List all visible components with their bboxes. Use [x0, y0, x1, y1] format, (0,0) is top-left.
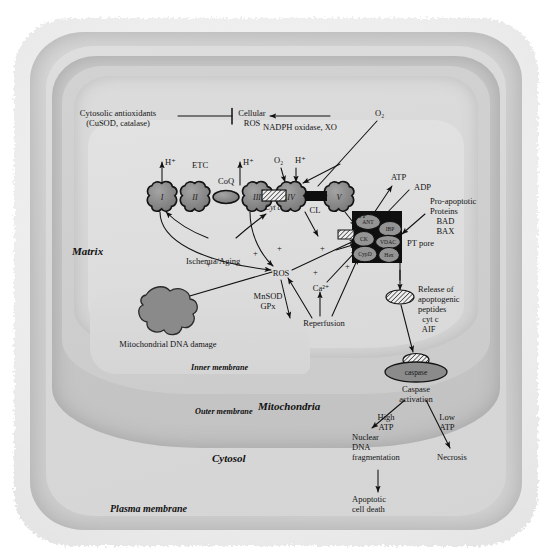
cypd-label: CypD [358, 251, 371, 257]
cytosolic-antioxidants-label: Cytosolic antioxidants (CuSOD, catalase) [80, 108, 156, 128]
complex-iv-label: IV [287, 193, 295, 202]
low-atp-label: Low ATP [439, 412, 455, 432]
high-atp-label: High ATP [378, 412, 395, 432]
ibp-label: IBP [386, 226, 395, 232]
cardiolipin-label: CL [310, 205, 321, 215]
extracellular-oxygen-label: O₂ [375, 108, 384, 118]
inner-membrane-label: Inner membrane [191, 363, 248, 372]
mitochondria-label: Mitochondria [258, 400, 320, 412]
cellular-ros-label: Cellular ROS [238, 108, 265, 128]
plasma-membrane-label: Plasma membrane [110, 503, 187, 514]
pro-apoptotic-proteins-label: Pro-apoptotic Proteins BAD BAX [430, 196, 476, 236]
apoptotic-cell-death-label: Apoptotic cell death [352, 494, 386, 514]
complex-ii-label: II [192, 193, 197, 202]
atp-label-out: ATP [391, 172, 406, 182]
coq-label: CoQ [218, 176, 234, 186]
etc-label: ETC [192, 160, 208, 170]
plus-sign-6: + [345, 261, 350, 271]
ros-label: ROS [273, 268, 290, 278]
hex-label: Hex [384, 252, 393, 258]
caspase-shape-label: caspase [405, 368, 428, 377]
proton-label-i: H⁺ [165, 157, 176, 167]
plus-sign-3: + [277, 243, 282, 253]
plus-sign-4: + [320, 243, 325, 253]
proton-label-iii: H⁺ [243, 157, 254, 167]
matrix-compartment-label: Matrix [72, 245, 103, 257]
cytosol-label: Cytosol [212, 452, 246, 464]
proton-label-iv: H⁺ [295, 155, 306, 165]
adp-label: ADP [414, 182, 431, 192]
cytc-label: Cyt c [265, 204, 280, 213]
atp-label-complexv: ATP [352, 210, 367, 220]
plus-sign-2: + [253, 248, 258, 258]
nuclear-dna-fragmentation-label: Nuclear DNA fragmentation [352, 432, 400, 462]
complex-i-label: I [161, 193, 164, 202]
necrosis-label: Necrosis [437, 452, 467, 462]
reperfusion-label: Reperfusion [303, 318, 345, 328]
ischemia-aging-label: Ischemia/Aging [186, 256, 240, 266]
complex-v-label: V [337, 193, 342, 202]
pt-pore-label: PT pore [407, 238, 434, 248]
mnsod-gpx-label: MnSOD GPx [254, 291, 283, 311]
vdac-label: VDAC [380, 239, 396, 245]
figure-canvas: Cytosolic antioxidants (CuSOD, catalase)… [0, 0, 550, 557]
mtdna-damage-label: Mitochondrial DNA damage [119, 339, 216, 349]
outer-membrane-label: Outer membrane [195, 407, 253, 416]
plus-sign-5: + [313, 267, 318, 277]
complex-iii-label: III [253, 193, 261, 202]
release-apoptogenic-peptides-label: Release of apoptogenic peptides cyt c AI… [418, 284, 460, 334]
plus-sign-1: + [206, 259, 211, 269]
calcium-label: Ca²⁺ [313, 283, 329, 293]
ck-label: CK [360, 236, 368, 242]
oxygen-label-complexiv: O₂ [274, 155, 283, 165]
nadph-oxidase-label: NADPH oxidase, XO [263, 122, 337, 132]
caspase-activation-label: Caspase activation [399, 384, 433, 404]
